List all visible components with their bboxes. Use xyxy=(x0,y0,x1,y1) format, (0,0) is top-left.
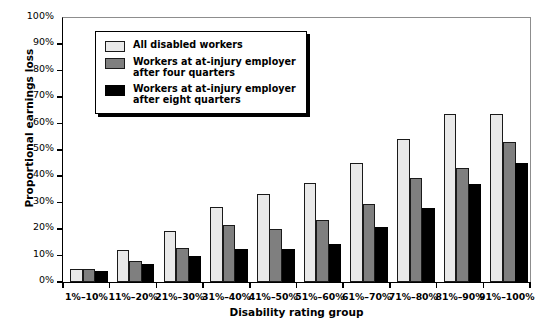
x-axis-title: Disability rating group xyxy=(62,306,531,318)
x-tick-label: 21%–30% xyxy=(155,291,204,302)
x-tick-mark xyxy=(342,282,344,288)
x-tick-label: 91%–100% xyxy=(479,291,535,302)
y-tick-label: 50% xyxy=(33,142,54,153)
y-tick-label: 10% xyxy=(33,248,54,259)
bar xyxy=(304,183,317,282)
legend-swatch xyxy=(105,41,125,52)
x-tick-mark xyxy=(156,282,158,288)
y-tick-label: 100% xyxy=(27,10,54,21)
legend-item: Workers at at-injury employer after eigh… xyxy=(105,83,296,106)
x-tick-label: 71%–80% xyxy=(389,291,438,302)
y-tick-label: 30% xyxy=(33,195,54,206)
x-tick-label: 11%–20% xyxy=(109,291,158,302)
x-tick-label: 61%–70% xyxy=(342,291,391,302)
x-tick-label: 1%–10% xyxy=(65,291,108,302)
x-tick-mark xyxy=(62,282,64,288)
x-tick-mark xyxy=(109,282,111,288)
bar xyxy=(176,248,189,282)
bar xyxy=(316,220,329,282)
y-tick-label: 60% xyxy=(33,116,54,127)
bar xyxy=(456,168,469,282)
x-tick-mark xyxy=(202,282,204,288)
bar-group xyxy=(350,18,388,282)
bar xyxy=(95,271,108,282)
bar xyxy=(142,264,155,282)
bar xyxy=(223,225,236,282)
bar xyxy=(117,250,130,282)
y-tick-label: 90% xyxy=(33,36,54,47)
x-tick-mark xyxy=(389,282,391,288)
x-tick-mark xyxy=(249,282,251,288)
legend-swatch xyxy=(105,85,125,96)
bar xyxy=(469,184,482,282)
y-tick-label: 70% xyxy=(33,89,54,100)
bar-group xyxy=(490,18,528,282)
y-axis-title: Proportional earnings loss xyxy=(23,13,35,243)
x-tick-label: 31%–40% xyxy=(202,291,251,302)
y-tick-label: 0% xyxy=(39,274,54,285)
legend-label: Workers at at-injury employer after eigh… xyxy=(133,83,296,106)
bar xyxy=(189,256,202,282)
bar xyxy=(397,139,410,282)
bar-group xyxy=(444,18,482,282)
bar-chart: Proportional earnings loss 0%10%20%30%40… xyxy=(0,0,547,328)
bar xyxy=(363,204,376,282)
x-tick-mark xyxy=(296,282,298,288)
bar-group xyxy=(397,18,435,282)
bar xyxy=(282,249,295,282)
legend-item: Workers at at-injury employer after four… xyxy=(105,56,296,79)
legend-label: All disabled workers xyxy=(133,39,243,50)
bar xyxy=(410,178,423,282)
bar xyxy=(83,269,96,282)
bar xyxy=(129,261,142,282)
bar xyxy=(210,207,223,282)
y-tick-label: 20% xyxy=(33,221,54,232)
bar-group xyxy=(304,18,342,282)
x-tick-label: 51%–60% xyxy=(295,291,344,302)
bar xyxy=(269,229,282,282)
bar xyxy=(257,194,270,282)
bar xyxy=(503,142,516,282)
legend-label: Workers at at-injury employer after four… xyxy=(133,56,296,79)
x-tick-mark xyxy=(436,282,438,288)
bar xyxy=(329,244,342,282)
bar xyxy=(422,208,435,282)
x-tick-mark xyxy=(529,282,531,288)
bar xyxy=(350,163,363,282)
x-tick-label: 41%–50% xyxy=(249,291,298,302)
chart-legend: All disabled workersWorkers at at-injury… xyxy=(95,31,307,114)
x-tick-label: 81%–90% xyxy=(435,291,484,302)
bar xyxy=(164,231,177,282)
bar xyxy=(515,163,528,282)
bar xyxy=(375,227,388,282)
y-tick-label: 80% xyxy=(33,63,54,74)
y-tick-label: 40% xyxy=(33,168,54,179)
legend-swatch xyxy=(105,58,125,69)
x-tick-mark xyxy=(483,282,485,288)
legend-item: All disabled workers xyxy=(105,39,296,52)
bar xyxy=(444,114,457,282)
bar xyxy=(235,249,248,282)
bar xyxy=(70,269,83,282)
bar xyxy=(490,114,503,282)
